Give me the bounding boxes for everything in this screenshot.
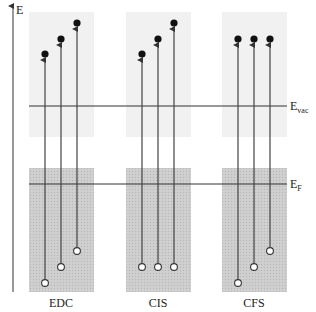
- hole-icon: [235, 280, 242, 287]
- excited-electron-icon: [234, 35, 241, 42]
- excited-electron-icon: [41, 50, 48, 57]
- excited-electron-icon: [250, 35, 257, 42]
- panel-label-edc: EDC: [49, 296, 73, 310]
- hole-icon: [42, 280, 49, 287]
- panel-label-cfs: CFS: [243, 296, 264, 310]
- fermi-level-label: EF: [290, 177, 302, 193]
- photoemission-modes-diagram: E Evac EF EDC CIS CFS: [0, 0, 316, 312]
- excited-electron-icon: [170, 19, 177, 26]
- excited-electron-icon: [154, 35, 161, 42]
- hole-icon: [74, 248, 81, 255]
- excited-electron-icon: [138, 50, 145, 57]
- vacuum-level-label-main: E: [290, 99, 297, 113]
- hole-icon: [139, 264, 146, 271]
- vacuum-level-label-sub: vac: [297, 106, 309, 115]
- fermi-level-label-sub: F: [297, 184, 302, 193]
- vacuum-level-label: Evac: [290, 99, 309, 115]
- energy-axis-label: E: [16, 3, 23, 17]
- panel-label-cis: CIS: [149, 296, 168, 310]
- fermi-level-label-main: E: [290, 177, 297, 191]
- hole-icon: [251, 264, 258, 271]
- excited-electron-icon: [57, 35, 64, 42]
- hole-icon: [58, 264, 65, 271]
- hole-icon: [155, 264, 162, 271]
- excited-electron-icon: [73, 19, 80, 26]
- hole-icon: [267, 248, 274, 255]
- hole-icon: [171, 264, 178, 271]
- excited-electron-icon: [266, 35, 273, 42]
